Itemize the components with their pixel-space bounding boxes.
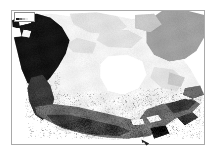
map-raster-canvas[interactable] xyxy=(12,11,204,144)
map-legend-label xyxy=(15,13,34,14)
map-legend-swatches xyxy=(16,18,28,20)
legend-swatch xyxy=(25,18,28,20)
map-figure xyxy=(0,0,217,155)
map-frame[interactable] xyxy=(11,10,205,145)
map-legend-box[interactable] xyxy=(14,12,35,22)
